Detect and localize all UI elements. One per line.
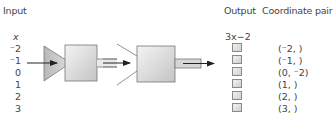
output-box[interactable] (232, 91, 242, 100)
coordinate-pair: (0, ⁻2) (278, 67, 309, 79)
output-box[interactable] (232, 55, 242, 64)
coordinate-pair: (⁻2, ) (278, 43, 303, 55)
coordinate-pair: (⁻1, ) (278, 55, 303, 67)
coordinate-pair: (2, ) (278, 91, 298, 103)
output-rule: 3x−2 (225, 31, 251, 43)
output-box[interactable] (232, 43, 242, 52)
output-box[interactable] (232, 67, 242, 76)
coordinate-pair: (1, ) (278, 79, 298, 91)
output-box[interactable] (232, 103, 242, 112)
coordinate-pair: (3, ) (278, 103, 298, 115)
machine-2 (117, 44, 201, 85)
output-box[interactable] (232, 79, 242, 88)
